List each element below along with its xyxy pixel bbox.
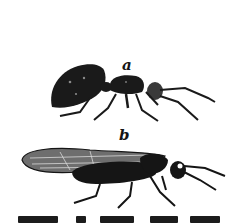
figure-label-a: a — [122, 58, 132, 73]
insect-figure: a b — [0, 0, 243, 223]
figure-caption-truncated — [0, 214, 243, 223]
figure-label-b: b — [119, 128, 130, 143]
insect-b-drawing — [22, 148, 225, 208]
insect-a-drawing — [51, 64, 215, 121]
insect-illustration — [0, 0, 243, 223]
